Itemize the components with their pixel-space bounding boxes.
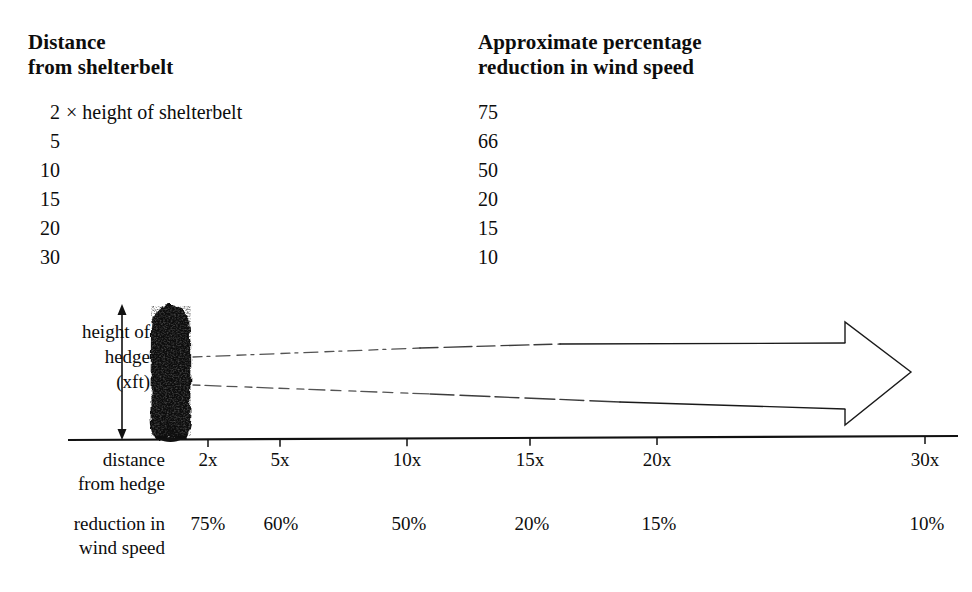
table-header-distance-line2: from shelterbelt [28,55,173,80]
table-body: 2 × height of shelterbelt 75 5 66 10 50 … [0,98,972,272]
ground-axis-line [68,436,958,440]
hedge-texture [151,306,191,436]
tick-label-distance: 15x [516,448,545,472]
table-row: 15 20 [0,185,972,214]
tick-label-reduction: 75% [191,512,226,536]
tick-label-distance: 10x [393,448,422,472]
wind-arrowhead [845,322,911,425]
cell-reduction: 20 [478,185,498,214]
table-header-reduction: Approximate percentage reduction in wind… [478,30,702,80]
table-header-distance-line1: Distance [28,30,173,55]
tick-label-reduction: 20% [515,512,550,536]
hedge-diagram: height of hedge (xft) distance from hedg… [0,288,972,592]
table-header-distance: Distance from shelterbelt [28,30,173,80]
tick-label-distance: 5x [271,448,290,472]
cell-reduction: 50 [478,156,498,185]
cell-distance: 2 [0,98,60,127]
tick-label-distance: 30x [911,448,940,472]
height-label-line2: hedge [0,344,150,369]
tick-label-reduction: 60% [264,512,299,536]
cell-distance: 20 [0,214,60,243]
reduction-label-line2: wind speed [0,536,165,560]
tick-label-distance: 2x [199,448,218,472]
tick-label-distance: 20x [643,448,672,472]
table-header-reduction-line2: reduction in wind speed [478,55,702,80]
wind-arrow [193,343,845,409]
cell-reduction: 75 [478,98,498,127]
table-row: 2 × height of shelterbelt 75 [0,98,972,127]
height-label-line1: height of [0,319,150,344]
hedge-illustration [150,305,191,442]
tick-label-reduction: 50% [392,512,427,536]
tick-label-reduction: 15% [642,512,677,536]
reduction-label-line1: reduction in [0,512,165,536]
cell-distance: 10 [0,156,60,185]
tick-label-reduction: 10% [910,512,945,536]
cell-reduction: 66 [478,127,498,156]
table-row: 30 10 [0,243,972,272]
table-header-reduction-line1: Approximate percentage [478,30,702,55]
table-row: 5 66 [0,127,972,156]
cell-distance: 30 [0,243,60,272]
figure-root: Distance from shelterbelt Approximate pe… [0,0,972,592]
table-row: 20 15 [0,214,972,243]
cell-reduction: 10 [478,243,498,272]
cell-distance: 5 [0,127,60,156]
cell-distance-unit: × height of shelterbelt [66,98,242,127]
table-row: 10 50 [0,156,972,185]
height-label-line3: (xft) [0,369,150,394]
cell-distance: 15 [0,185,60,214]
distance-axis-label-line1: distance [0,448,165,472]
distance-axis-label-line2: from hedge [0,472,165,496]
cell-reduction: 15 [478,214,498,243]
